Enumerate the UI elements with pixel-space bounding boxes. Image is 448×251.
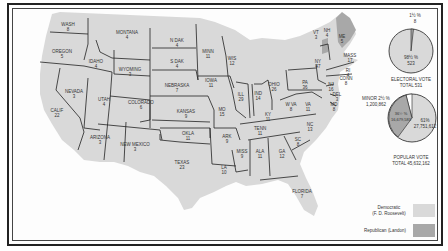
legend-republican-swatch: [413, 224, 435, 237]
popular-caption: POPULAR VOTE TOTAL 45,632,162: [385, 155, 437, 166]
legend-democratic-label: Democratic (F. D. Roosevelt): [366, 205, 412, 216]
legend-democratic-swatch: [413, 204, 435, 217]
legend-republican-label: Republican (Landon): [356, 228, 414, 234]
popular-rep-label: 36½ % 16,679,583: [390, 111, 412, 122]
popular-dem-label: 61% 27,751,612: [412, 118, 438, 129]
